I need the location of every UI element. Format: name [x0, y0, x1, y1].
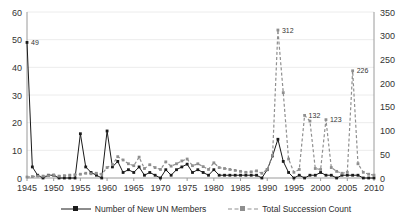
- svg-text:250: 250: [380, 55, 395, 65]
- chart-legend: Number of New UN Members Total Successio…: [0, 198, 412, 220]
- svg-text:300: 300: [380, 31, 395, 41]
- svg-text:150: 150: [380, 102, 395, 112]
- svg-text:2000: 2000: [311, 183, 331, 193]
- svg-text:60: 60: [12, 8, 22, 18]
- svg-text:1945: 1945: [17, 183, 37, 193]
- svg-text:20: 20: [12, 118, 22, 128]
- svg-text:1995: 1995: [284, 183, 304, 193]
- svg-text:30: 30: [12, 91, 22, 101]
- svg-text:2010: 2010: [364, 183, 384, 193]
- svg-text:0: 0: [17, 174, 22, 184]
- legend-item-succession-count: Total Succession Count: [228, 204, 351, 214]
- chart-container: 0102030405060050100150200250300350194519…: [0, 0, 412, 220]
- svg-text:1985: 1985: [231, 183, 251, 193]
- svg-text:1975: 1975: [177, 183, 197, 193]
- svg-text:1990: 1990: [257, 183, 277, 193]
- svg-text:1955: 1955: [70, 183, 90, 193]
- svg-text:123: 123: [330, 116, 342, 123]
- svg-text:100: 100: [380, 126, 395, 136]
- svg-text:1970: 1970: [150, 183, 170, 193]
- svg-text:200: 200: [380, 79, 395, 89]
- legend-label-succession-count: Total Succession Count: [262, 204, 351, 214]
- legend-item-un-members: Number of New UN Members: [61, 204, 206, 214]
- svg-text:1965: 1965: [124, 183, 144, 193]
- svg-text:50: 50: [380, 150, 390, 160]
- svg-text:0: 0: [380, 174, 385, 184]
- svg-text:226: 226: [357, 67, 369, 74]
- svg-text:312: 312: [282, 27, 294, 34]
- svg-text:132: 132: [309, 112, 321, 119]
- svg-text:1950: 1950: [44, 183, 64, 193]
- legend-key-un-members: [61, 204, 91, 214]
- legend-key-succession-count: [228, 204, 258, 214]
- svg-text:350: 350: [380, 8, 395, 18]
- svg-text:1960: 1960: [97, 183, 117, 193]
- svg-text:40: 40: [12, 63, 22, 73]
- chart-plot-area: 0102030405060050100150200250300350194519…: [0, 0, 412, 220]
- svg-text:1980: 1980: [204, 183, 224, 193]
- svg-text:49: 49: [31, 39, 39, 46]
- svg-text:50: 50: [12, 35, 22, 45]
- svg-text:2005: 2005: [337, 183, 357, 193]
- svg-text:10: 10: [12, 146, 22, 156]
- legend-label-un-members: Number of New UN Members: [95, 204, 206, 214]
